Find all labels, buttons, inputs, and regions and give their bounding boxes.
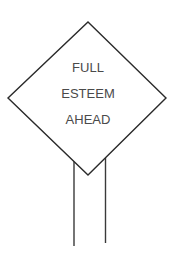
sign-line-3: AHEAD (66, 112, 111, 127)
sign-line-1: FULL (72, 60, 104, 75)
sign-line-2: ESTEEM (61, 86, 114, 101)
road-sign-illustration: FULL ESTEEM AHEAD (0, 0, 180, 262)
